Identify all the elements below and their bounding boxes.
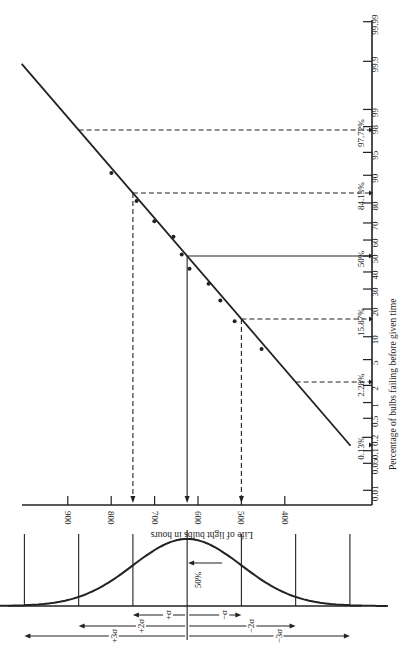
hours-tick-label: 600	[193, 511, 203, 525]
sigma-label-plus: +2σ	[136, 619, 146, 634]
data-point	[260, 347, 264, 351]
percent-tick-label: 99.99	[370, 14, 380, 35]
percent-axis-title: Percentage of bulbs failing before given…	[388, 299, 398, 470]
probability-plot-chart: 900800700600500400 0.010.050.10.20.51251…	[0, 0, 412, 648]
arrowhead-left-icon	[133, 613, 139, 618]
fit-line	[22, 64, 351, 446]
data-point	[180, 252, 184, 256]
percent-tick-label: 0.01	[370, 485, 380, 501]
data-point	[218, 298, 222, 302]
arrowhead-left-icon	[188, 561, 194, 566]
percent-tick-label: 80	[370, 201, 380, 211]
hours-axis-title: Life of light bulbs in hours	[151, 530, 253, 540]
axes-group	[22, 20, 372, 505]
data-point	[188, 267, 192, 271]
percent-tick-label: 5	[370, 360, 380, 365]
percent-tick-label: 1	[370, 403, 380, 408]
reference-line-label: 97.72%	[356, 119, 366, 147]
arrowhead-left-icon	[24, 634, 30, 639]
arrowhead-down-icon	[239, 496, 244, 503]
data-point	[135, 199, 139, 203]
reference-line-label: 50%	[356, 250, 366, 267]
arrowhead-down-icon	[185, 496, 190, 503]
percent-tick-label: 0.1	[370, 448, 380, 459]
percent-tick-label: 20	[370, 307, 380, 317]
data-point	[233, 319, 237, 323]
hours-tick-label: 700	[150, 511, 160, 525]
percent-tick-label: 40	[370, 270, 380, 280]
hours-tick-label: 400	[280, 511, 290, 525]
fifty-percent-label: 50%	[193, 571, 203, 588]
percent-tick-label: 70	[370, 221, 380, 231]
data-point	[109, 171, 113, 175]
arrowhead-right-icon	[344, 634, 350, 639]
arrowhead-right-icon	[290, 624, 296, 629]
hours-tick-label: 800	[106, 511, 116, 525]
percent-tick-label: 0.05	[370, 458, 380, 474]
percent-tick-label: 90	[370, 173, 380, 183]
normal-curve-group: 50%+σ−σ+2σ−2σ+3σ−3σ	[0, 530, 388, 643]
reference-line-label: 15.87%	[356, 308, 366, 336]
hours-ticks-group: 900800700600500400	[63, 496, 290, 525]
percent-tick-label: 10	[370, 335, 380, 345]
sigma-label-plus: +σ	[163, 610, 173, 620]
percent-tick-label: 30	[370, 287, 380, 297]
sigma-label-minus: −2σ	[246, 619, 256, 634]
percent-tick-label: 99.9	[370, 56, 380, 72]
percent-tick-label: 2	[370, 386, 380, 391]
reference-line-label: 0.13%	[356, 436, 366, 460]
arrowhead-left-icon	[79, 624, 85, 629]
arrowhead-right-icon	[235, 613, 241, 618]
sigma-label-plus: +3σ	[109, 629, 119, 644]
arrowhead-down-icon	[130, 496, 135, 503]
data-point	[171, 235, 175, 239]
hours-tick-label: 900	[63, 511, 73, 525]
data-point	[207, 282, 211, 286]
data-point	[152, 219, 156, 223]
sigma-label-minus: −σ	[219, 610, 229, 620]
percent-tick-label: 60	[370, 238, 380, 248]
reference-lines-group: 97.72%84.13%50%15.87%2.28%0.13%	[79, 119, 373, 503]
percent-tick-label: 99	[370, 107, 380, 117]
reference-line-label: 84.13%	[356, 182, 366, 210]
percent-tick-label: 95	[370, 150, 380, 160]
sigma-label-minus: −3σ	[274, 629, 284, 644]
percent-tick-label: 0.5	[370, 415, 380, 427]
reference-line-label: 2.28%	[356, 373, 366, 397]
hours-tick-label: 500	[236, 511, 246, 525]
